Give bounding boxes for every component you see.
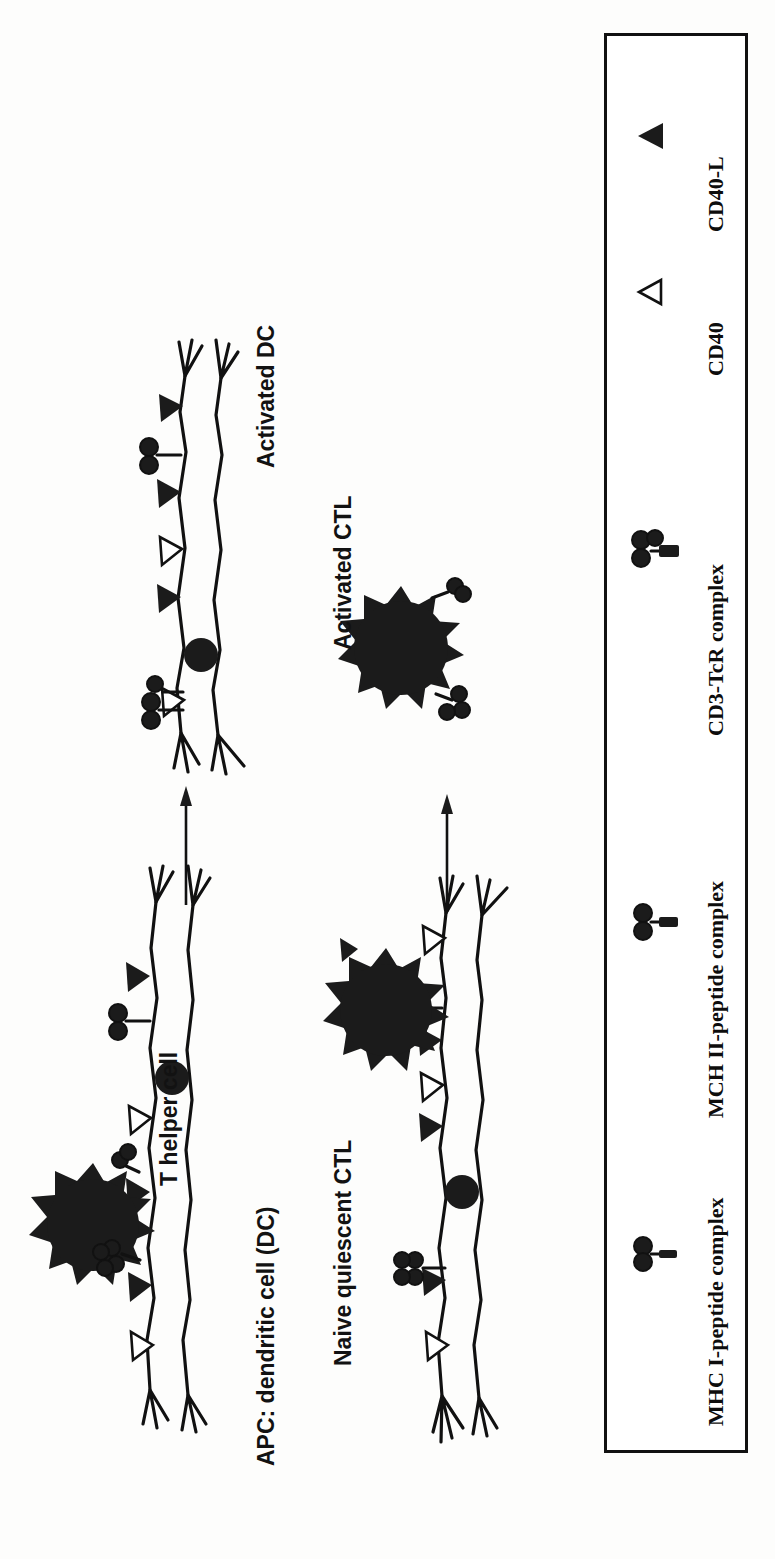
cd40-ligand-icon (633, 118, 673, 154)
mhc-i-peptide-complex-icon (625, 1231, 685, 1277)
label-activated-ctl: Activated CTL (330, 495, 357, 650)
cd40-icon (633, 274, 673, 310)
label-apc-dendritic-cell: APC: dendritic cell (DC) (253, 1207, 280, 1466)
legend-label-cd3-tcr: CD3-TcR complex (703, 564, 729, 736)
label-activated-dc: Activated DC (253, 325, 280, 468)
legend-label-mhc-i: MHC I-peptide complex (703, 1197, 729, 1426)
label-naive-quiescent-ctl: Naive quiescent CTL (330, 1140, 357, 1366)
figure-canvas: T helper cell APC: dendritic cell (DC) A… (0, 0, 775, 1559)
legend-label-cd40: CD40 (703, 322, 729, 376)
legend-box: MHC I-peptide complex MCH II-peptide com… (604, 33, 748, 1453)
label-t-helper-cell: T helper cell (156, 1052, 183, 1186)
cd3-tcr-complex-icon (621, 526, 687, 576)
mhc-ii-peptide-complex-icon (625, 899, 685, 945)
legend-label-cd40-l: CD40-L (703, 156, 729, 232)
legend-label-mhc-ii: MCH II-peptide complex (703, 881, 729, 1118)
